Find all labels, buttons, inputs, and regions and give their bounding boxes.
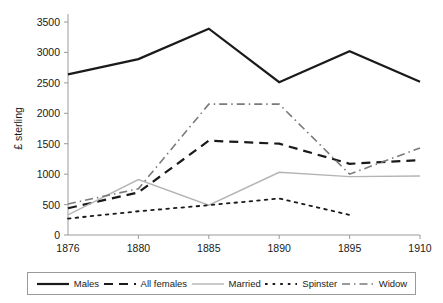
x-tick-label: 1895 bbox=[338, 242, 362, 254]
legend-swatch-males-icon bbox=[36, 279, 70, 289]
chart-legend: Males All females Married Spinster Widow bbox=[27, 272, 416, 295]
series-line-all-females bbox=[68, 141, 420, 209]
chart-svg: 0500100015002000250030003500187618801885… bbox=[0, 0, 443, 258]
x-tick-label: 1876 bbox=[56, 242, 80, 254]
y-axis-title: £ sterling bbox=[12, 107, 24, 150]
legend-item-widow[interactable]: Widow bbox=[341, 278, 408, 289]
legend-swatch-spinster-icon bbox=[264, 279, 298, 289]
chart-page: 0500100015002000250030003500187618801885… bbox=[0, 0, 443, 303]
y-tick-label: 2500 bbox=[37, 77, 61, 89]
x-tick-label: 1890 bbox=[268, 242, 292, 254]
y-tick-label: 2000 bbox=[37, 107, 61, 119]
series-line-married bbox=[68, 172, 420, 215]
y-tick-label: 1500 bbox=[37, 138, 61, 150]
x-tick-label: 1880 bbox=[127, 242, 151, 254]
legend-label-widow: Widow bbox=[379, 278, 408, 289]
y-tick-label: 1000 bbox=[37, 168, 61, 180]
y-tick-label: 500 bbox=[42, 199, 60, 211]
legend-label-spinster: Spinster bbox=[302, 278, 337, 289]
legend-label-married: Married bbox=[229, 278, 261, 289]
y-tick-label: 3000 bbox=[37, 46, 61, 58]
legend-swatch-widow-icon bbox=[341, 279, 375, 289]
series-line-spinster bbox=[68, 198, 350, 218]
legend-label-all-females: All females bbox=[141, 278, 187, 289]
x-tick-label: 1885 bbox=[197, 242, 221, 254]
y-tick-label: 3500 bbox=[37, 16, 61, 28]
series-line-males bbox=[68, 29, 420, 83]
x-tick-label: 1910 bbox=[408, 242, 432, 254]
y-tick-label: 0 bbox=[54, 229, 60, 241]
legend-label-males: Males bbox=[74, 278, 99, 289]
legend-item-spinster[interactable]: Spinster bbox=[264, 278, 337, 289]
line-chart: 0500100015002000250030003500187618801885… bbox=[0, 0, 443, 258]
legend-item-males[interactable]: Males bbox=[36, 278, 99, 289]
legend-item-married[interactable]: Married bbox=[191, 278, 261, 289]
legend-item-all-females[interactable]: All females bbox=[103, 278, 187, 289]
legend-swatch-married-icon bbox=[191, 279, 225, 289]
legend-swatch-all-females-icon bbox=[103, 279, 137, 289]
